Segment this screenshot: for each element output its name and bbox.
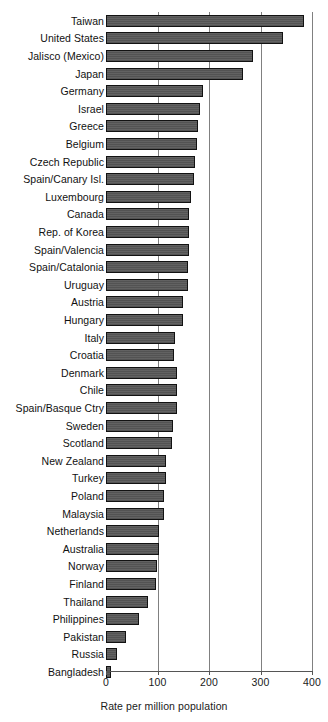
category-label: Czech Republic <box>30 156 104 168</box>
x-tick-label: 100 <box>148 676 166 688</box>
bar-row: Thailand <box>0 593 328 611</box>
bar-row: Italy <box>0 329 328 347</box>
bar <box>106 191 191 203</box>
bar <box>106 560 157 572</box>
bar <box>106 226 189 238</box>
bar-row: New Zealand <box>0 452 328 470</box>
x-tick <box>106 671 107 675</box>
category-label: Russia <box>72 648 104 660</box>
bar <box>106 156 195 168</box>
category-label: New Zealand <box>42 455 104 467</box>
bar-row: Austria <box>0 294 328 312</box>
category-label: Netherlands <box>47 525 104 537</box>
bar-row: Norway <box>0 558 328 576</box>
bar-row: Uruguay <box>0 276 328 294</box>
bar-row: Spain/Basque Ctry <box>0 399 328 417</box>
bar-row: Denmark <box>0 364 328 382</box>
bar <box>106 437 172 449</box>
bar <box>106 543 159 555</box>
category-label: Thailand <box>63 596 104 608</box>
x-tick <box>261 671 262 675</box>
x-axis-title: Rate per million population <box>0 700 328 712</box>
bar-row: Belgium <box>0 135 328 153</box>
x-tick-label: 400 <box>303 676 321 688</box>
category-label: Australia <box>63 543 104 555</box>
x-tick-label: 200 <box>200 676 218 688</box>
bar-row: Croatia <box>0 346 328 364</box>
category-label: Scotland <box>63 437 104 449</box>
bar-row: Pakistan <box>0 628 328 646</box>
category-label: Belgium <box>66 138 104 150</box>
bar <box>106 32 283 44</box>
bar-row: Spain/Canary Isl. <box>0 170 328 188</box>
category-label: Japan <box>75 68 104 80</box>
category-label: Jalisco (Mexico) <box>28 50 104 62</box>
bar-row: Rep. of Korea <box>0 223 328 241</box>
bar-row: Czech Republic <box>0 153 328 171</box>
x-tick-label: 300 <box>251 676 269 688</box>
category-label: Sweden <box>66 420 104 432</box>
category-label: Rep. of Korea <box>39 226 104 238</box>
x-tick <box>312 671 313 675</box>
bar <box>106 490 164 502</box>
category-label: Luxembourg <box>45 191 104 203</box>
bar <box>106 367 177 379</box>
bar <box>106 631 126 643</box>
bar <box>106 508 164 520</box>
bar <box>106 15 304 27</box>
bar-row: Jalisco (Mexico) <box>0 47 328 65</box>
bar <box>106 296 183 308</box>
bar <box>106 314 183 326</box>
bar <box>106 420 173 432</box>
category-label: Italy <box>84 332 104 344</box>
category-label: Spain/Valencia <box>34 244 104 256</box>
category-label: Malaysia <box>62 508 104 520</box>
bar <box>106 578 156 590</box>
category-label: Pakistan <box>63 631 104 643</box>
bar <box>106 613 139 625</box>
bar-row: Hungary <box>0 311 328 329</box>
category-label: Poland <box>71 490 104 502</box>
bar <box>106 279 188 291</box>
bar <box>106 120 198 132</box>
bar <box>106 384 177 396</box>
bar-row: Sweden <box>0 417 328 435</box>
bar-row: Finland <box>0 575 328 593</box>
category-label: Finland <box>69 578 104 590</box>
bar-row: United States <box>0 30 328 48</box>
bar <box>106 261 188 273</box>
category-label: Uruguay <box>64 279 104 291</box>
bar-row: Canada <box>0 206 328 224</box>
x-tick-label: 0 <box>103 676 109 688</box>
bar-row: Poland <box>0 487 328 505</box>
bar <box>106 455 166 467</box>
category-label: Bangladesh <box>48 666 104 678</box>
bar-row: Malaysia <box>0 505 328 523</box>
bar <box>106 103 200 115</box>
bar-row: Russia <box>0 646 328 664</box>
bar-row: Philippines <box>0 610 328 628</box>
bar <box>106 525 159 537</box>
bar <box>106 402 177 414</box>
bar <box>106 332 175 344</box>
bar-row: Greece <box>0 118 328 136</box>
category-label: Germany <box>60 85 104 97</box>
bar <box>106 648 117 660</box>
bar-row: Spain/Catalonia <box>0 258 328 276</box>
bar <box>106 85 203 97</box>
bar <box>106 349 174 361</box>
category-label: Croatia <box>70 349 104 361</box>
bar-row: Taiwan <box>0 12 328 30</box>
category-label: Spain/Canary Isl. <box>23 173 104 185</box>
category-label: Spain/Basque Ctry <box>16 402 104 414</box>
x-tick <box>158 671 159 675</box>
bar <box>106 68 243 80</box>
bar <box>106 596 148 608</box>
category-label: Chile <box>80 384 104 396</box>
category-label: Turkey <box>72 472 104 484</box>
bar-row: Luxembourg <box>0 188 328 206</box>
bar <box>106 138 197 150</box>
category-label: Spain/Catalonia <box>29 261 104 273</box>
category-label: Greece <box>69 120 104 132</box>
bar <box>106 244 189 256</box>
